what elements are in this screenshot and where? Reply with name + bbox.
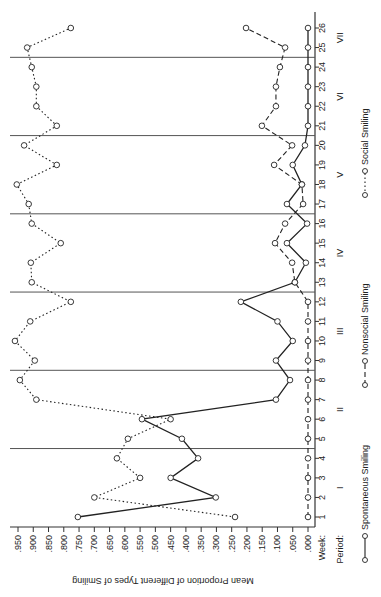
week-tick-label: 19 [317, 160, 327, 170]
period-label: IV [335, 249, 345, 258]
week-tick-label: 5 [317, 436, 327, 441]
series-line-spontaneous-smiling [78, 28, 308, 517]
value-tick-label: .900 [28, 535, 38, 553]
data-point-marker [273, 103, 279, 109]
value-tick-label: .400 [181, 535, 191, 553]
data-point-marker [12, 338, 18, 344]
legend-label: Social Smiling [360, 108, 370, 165]
data-point-marker [305, 358, 311, 364]
data-point-marker [272, 240, 278, 246]
data-point-marker [21, 143, 27, 149]
week-tick-label: 12 [317, 297, 327, 307]
data-point-marker [68, 299, 74, 305]
week-tick-label: 16 [317, 219, 327, 229]
period-axis-title: Period: [335, 535, 345, 564]
data-point-marker [305, 84, 311, 90]
value-tick-label: .450 [166, 535, 176, 553]
data-point-marker [125, 436, 131, 442]
data-point-marker [289, 260, 295, 266]
period-label: II [335, 407, 345, 412]
period-label: I [335, 486, 345, 489]
data-point-marker [277, 64, 283, 70]
data-point-marker [32, 358, 38, 364]
data-point-marker [29, 64, 35, 70]
legend-item: Social Smiling [360, 108, 370, 197]
data-point-marker [305, 299, 311, 305]
data-point-marker [305, 319, 311, 325]
data-point-marker [305, 397, 311, 403]
value-axis-title: Mean Proportion of Different Types of Sm… [72, 576, 253, 586]
week-tick-label: 11 [317, 317, 327, 326]
data-point-marker [273, 397, 279, 403]
chart-canvas: .950.900.850.800.750.700.650.600.550.500… [0, 0, 381, 597]
data-point-marker [287, 377, 293, 383]
data-point-marker [34, 397, 40, 403]
data-point-marker [284, 201, 290, 207]
value-tick-label: .650 [105, 535, 115, 553]
week-tick-label: 22 [317, 101, 327, 111]
week-tick-label: 10 [317, 336, 327, 346]
data-point-marker [259, 123, 265, 129]
data-point-marker [29, 221, 35, 227]
period-label: VII [335, 32, 345, 43]
value-tick-label: .250 [227, 535, 237, 553]
value-tick-label: .800 [59, 535, 69, 553]
data-point-marker [27, 319, 33, 325]
data-point-marker [238, 299, 244, 305]
week-tick-label: 1 [317, 514, 327, 519]
week-tick-label: 18 [317, 179, 327, 189]
data-point-marker [34, 103, 40, 109]
data-point-marker [54, 162, 60, 168]
week-tick-label: 7 [317, 397, 327, 402]
week-tick-label: 23 [317, 82, 327, 92]
week-tick-label: 25 [317, 43, 327, 53]
value-tick-label: .550 [135, 535, 145, 553]
data-point-marker [195, 456, 201, 462]
data-point-marker [290, 338, 296, 344]
data-point-marker [137, 475, 143, 481]
data-point-marker [305, 456, 311, 462]
data-point-marker [75, 514, 81, 520]
value-tick-label: .350 [196, 535, 206, 553]
data-point-marker [305, 25, 311, 31]
value-tick-label: .300 [211, 535, 221, 553]
week-tick-label: 17 [317, 199, 327, 209]
data-point-marker [305, 416, 311, 422]
data-point-marker [305, 123, 311, 129]
week-tick-label: 6 [317, 417, 327, 422]
data-point-marker [54, 123, 60, 129]
data-point-marker [305, 475, 311, 481]
data-point-marker [17, 377, 23, 383]
week-tick-label: 9 [317, 358, 327, 363]
value-tick-label: .500 [150, 535, 160, 553]
data-point-marker [305, 377, 311, 383]
week-tick-label: 26 [317, 23, 327, 33]
legend-item: Spontaneous Smiling [360, 445, 370, 563]
value-tick-label: .000 [303, 535, 313, 553]
data-point-marker [289, 143, 295, 149]
data-point-marker [139, 416, 145, 422]
value-tick-label: .700 [89, 535, 99, 553]
data-point-marker [28, 260, 34, 266]
period-label: VI [335, 92, 345, 101]
data-point-marker [168, 475, 174, 481]
smiling-line-chart: .950.900.850.800.750.700.650.600.550.500… [0, 0, 381, 597]
data-point-marker [305, 103, 311, 109]
week-tick-label: 2 [317, 495, 327, 500]
data-point-marker [168, 416, 174, 422]
data-point-marker [26, 201, 32, 207]
week-tick-label: 15 [317, 238, 327, 248]
data-point-marker [282, 45, 288, 51]
legend-label: Spontaneous Smiling [360, 445, 370, 530]
data-point-marker [29, 279, 35, 285]
data-point-marker [282, 221, 288, 227]
data-point-marker [24, 45, 30, 51]
data-point-marker [271, 162, 277, 168]
week-tick-label: 13 [317, 277, 327, 287]
data-point-marker [34, 84, 40, 90]
week-tick-label: 8 [317, 378, 327, 383]
data-point-marker [179, 436, 185, 442]
series-line-nonsocial-smiling [246, 28, 308, 517]
data-point-marker [305, 338, 311, 344]
value-tick-label: .950 [13, 535, 23, 553]
